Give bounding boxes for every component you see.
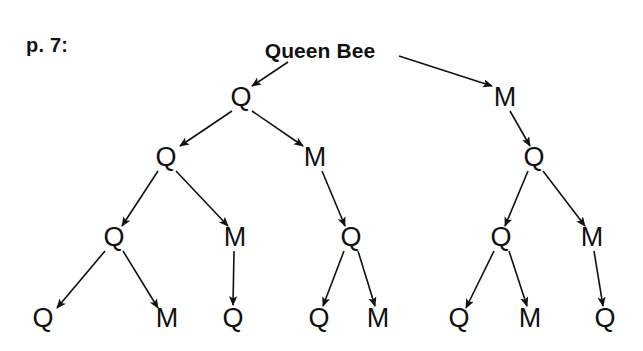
- tree-node-q: Q: [103, 224, 124, 251]
- tree-edge: [509, 251, 527, 306]
- tree-node-q: Q: [490, 224, 511, 251]
- tree-node-m: M: [581, 224, 604, 251]
- tree-edge: [252, 111, 303, 146]
- tree-edge: [122, 171, 158, 226]
- tree-node-q: Q: [155, 144, 176, 171]
- tree-node-q: Q: [448, 305, 469, 332]
- tree-edge: [358, 251, 375, 306]
- tree-node-m: M: [494, 84, 517, 111]
- tree-node-m: M: [224, 224, 247, 251]
- tree-node-q: Q: [523, 144, 544, 171]
- tree-node-q: Q: [308, 305, 329, 332]
- tree-node-m: M: [156, 305, 179, 332]
- tree-edge: [399, 56, 492, 86]
- tree-node-q: Q: [222, 305, 243, 332]
- tree-node-m: M: [367, 305, 390, 332]
- tree-edge: [594, 251, 603, 306]
- tree-root-node: Queen Bee: [265, 40, 376, 61]
- diagram-canvas: p. 7: Queen BeeQMQMQQMQQMQMQQMQMQ: [0, 0, 643, 351]
- tree-node-q: Q: [230, 84, 251, 111]
- tree-edge: [322, 171, 345, 226]
- tree-edge: [57, 251, 105, 308]
- tree-edge: [176, 171, 228, 226]
- tree-edge: [466, 251, 494, 308]
- tree-node-m: M: [304, 144, 327, 171]
- tree-node-m: M: [519, 305, 542, 332]
- tree-node-q: Q: [340, 224, 361, 251]
- tree-edge: [323, 251, 344, 306]
- tree-edge: [123, 251, 158, 308]
- tree-edge: [505, 171, 528, 226]
- tree-node-q: Q: [594, 305, 615, 332]
- tree-edge: [233, 251, 234, 305]
- tree-edge: [180, 111, 232, 146]
- tree-edge: [543, 171, 585, 226]
- tree-node-q: Q: [32, 305, 53, 332]
- tree-edge: [252, 62, 288, 86]
